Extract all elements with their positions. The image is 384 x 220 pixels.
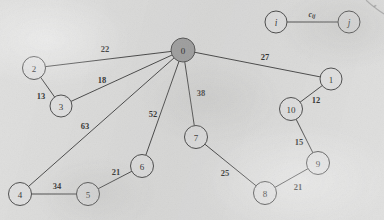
legend-node-label-left: i (275, 18, 278, 28)
edge-weight-label: 13 (37, 91, 46, 101)
edge-weight-label: 22 (101, 44, 110, 54)
node-label: 6 (140, 162, 145, 172)
node-label: 7 (194, 133, 199, 143)
edge-weight-label: 34 (53, 181, 62, 191)
graph-edge (185, 62, 195, 126)
node-label: 10 (287, 105, 297, 115)
legend-group: ijcij (265, 10, 360, 34)
graph-node[interactable]: 10 (280, 98, 303, 121)
graph-edge (275, 169, 308, 188)
graph-node[interactable]: 6 (131, 155, 154, 178)
node-label: 0 (181, 46, 186, 56)
node-label: 5 (86, 190, 91, 200)
node-label: 1 (329, 75, 334, 85)
graph-edge (296, 119, 313, 152)
edge-weight-label: 12 (312, 95, 321, 105)
figure-canvas: 012345678910 22181363342152382521151227 … (0, 0, 384, 220)
graph-node[interactable]: 5 (77, 183, 100, 206)
graph-node[interactable]: 4 (9, 183, 32, 206)
edges-layer (29, 51, 323, 194)
graph-svg: 012345678910 22181363342152382521151227 … (0, 0, 384, 220)
edge-weight-label: 21 (112, 167, 121, 177)
node-label: 2 (32, 64, 37, 74)
node-label: 9 (316, 159, 321, 169)
edge-weight-label: 38 (197, 88, 206, 98)
graph-node[interactable]: 3 (50, 95, 72, 117)
edge-weight-label: 63 (81, 121, 90, 131)
legend-cost-subscript: ij (312, 13, 316, 19)
node-label: 3 (59, 102, 64, 112)
edge-labels-layer: 22181363342152382521151227 (37, 44, 321, 192)
legend-cost-label: cij (309, 10, 316, 20)
graph-node[interactable]: 7 (185, 126, 208, 149)
graph-node[interactable]: 0 (171, 38, 195, 62)
graph-node[interactable]: 2 (23, 57, 46, 80)
edge-weight-label: 21 (294, 182, 303, 192)
graph-node[interactable]: 8 (254, 182, 277, 205)
edge-weight-label: 15 (295, 137, 304, 147)
edge-weight-label: 18 (98, 75, 107, 85)
scan-corner-artifact (366, 0, 384, 14)
graph-edge (205, 144, 256, 186)
edge-weight-label: 25 (221, 168, 230, 178)
node-label: 8 (263, 189, 268, 199)
edge-weight-label: 27 (261, 52, 270, 62)
graph-node[interactable]: 9 (307, 152, 330, 175)
node-label: 4 (18, 190, 23, 200)
graph-edge (195, 52, 320, 77)
edge-weight-label: 52 (149, 109, 158, 119)
graph-node[interactable]: 1 (320, 68, 342, 90)
